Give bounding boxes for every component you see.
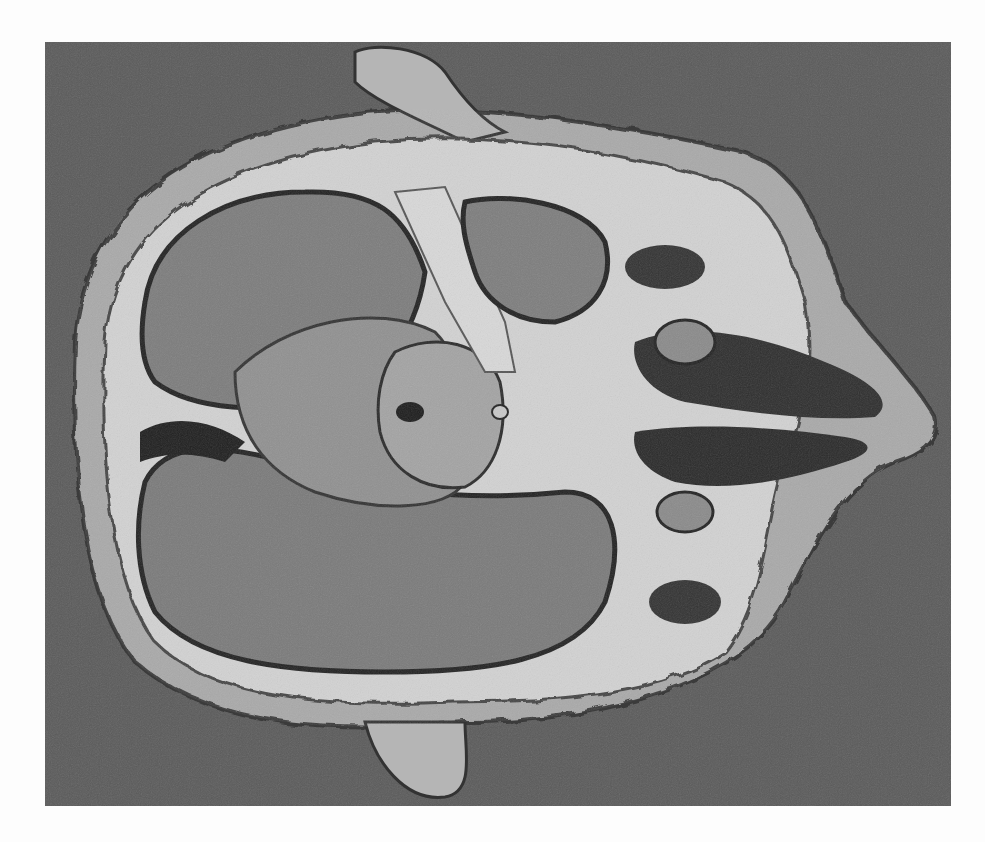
specimen-photo: Anatomical specimen: sectioned head show… xyxy=(45,42,951,806)
specimen-illustration xyxy=(45,42,951,806)
